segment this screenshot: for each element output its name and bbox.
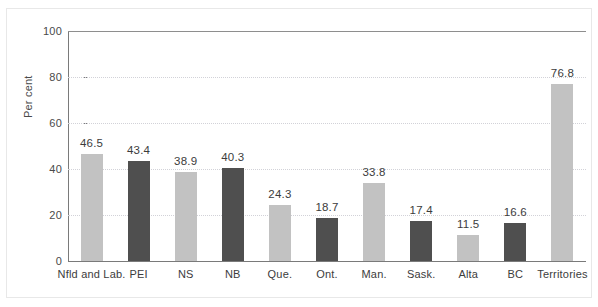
x-axis-labels: Nfld and Lab.PEINSNBQue.Ont.Man.Sask.Alt… — [68, 0, 586, 307]
x-category-label: BC — [508, 268, 524, 280]
x-category-label: Que. — [268, 268, 293, 280]
x-category-label: NS — [178, 268, 194, 280]
x-category-label: Territories — [537, 268, 588, 280]
x-category-label: NB — [225, 268, 241, 280]
bar-chart: Per cent 020406080100 46.543.438.940.324… — [0, 0, 598, 307]
x-category-label: PEI — [129, 268, 147, 280]
y-tick-label: 20 — [28, 209, 62, 221]
x-category-label: Ont. — [316, 268, 338, 280]
y-tick-label: 100 — [28, 25, 62, 37]
y-tick-label: 60 — [28, 117, 62, 129]
y-tick-label: 40 — [28, 163, 62, 175]
y-tick-label: 0 — [28, 255, 62, 267]
y-axis-ticks: 020406080100 — [20, 31, 62, 261]
x-category-label: Sask. — [407, 268, 436, 280]
x-category-label: Man. — [361, 268, 386, 280]
x-category-label: Nfld and Lab. — [58, 268, 126, 280]
y-tick-label: 80 — [28, 71, 62, 83]
x-category-label: Alta — [458, 268, 478, 280]
